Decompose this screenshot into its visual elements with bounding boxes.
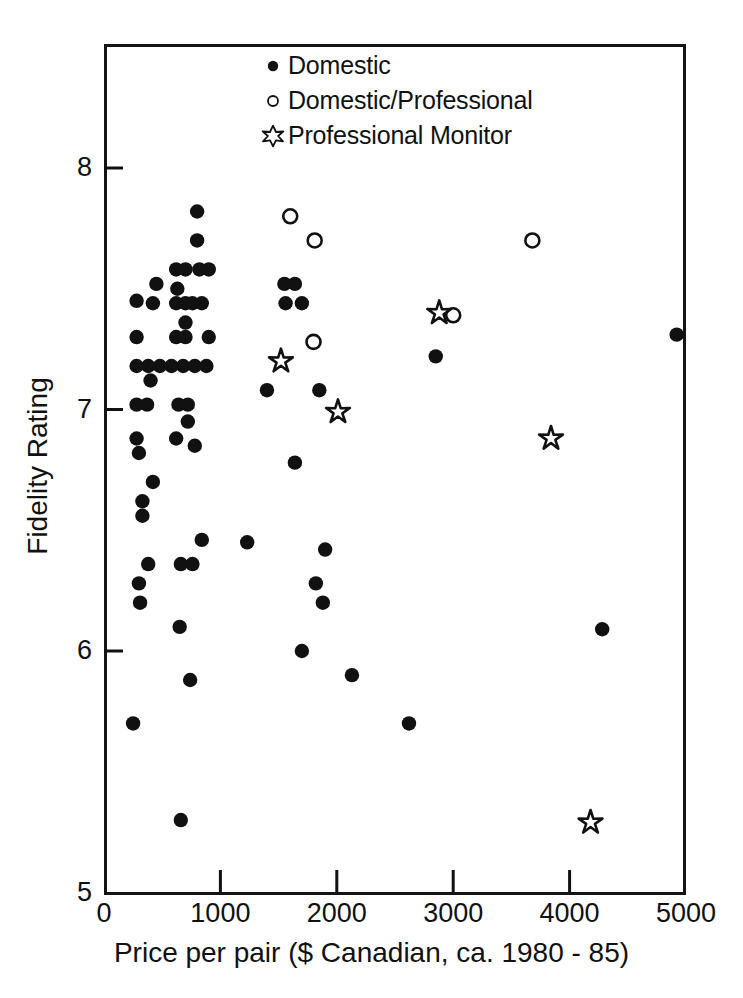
x-tick-label-5000: 5000 bbox=[626, 900, 743, 927]
open-circle-icon bbox=[258, 90, 288, 112]
x-tick-label-2000: 2000 bbox=[277, 900, 397, 927]
plot-area-frame bbox=[104, 44, 686, 895]
x-tick-label-4000: 4000 bbox=[510, 900, 630, 927]
legend-label-domestic-professional: Domestic/Professional bbox=[288, 88, 533, 113]
y-tick-label-6: 6 bbox=[52, 637, 92, 664]
y-axis-title: Fidelity Rating bbox=[22, 336, 54, 596]
scatter-plot-figure: Domestic Domestic/Professional Professio… bbox=[0, 0, 743, 998]
open-star-icon bbox=[258, 123, 288, 149]
legend-label-professional-monitor: Professional Monitor bbox=[288, 123, 512, 148]
legend-label-domestic: Domestic bbox=[288, 53, 391, 78]
legend-entry-domestic-professional: Domestic/Professional bbox=[258, 83, 588, 118]
x-tick-label-3000: 3000 bbox=[393, 900, 513, 927]
legend-entry-professional-monitor: Professional Monitor bbox=[258, 118, 588, 153]
legend-entry-domestic: Domestic bbox=[258, 48, 588, 83]
x-tick-label-0: 0 bbox=[44, 900, 164, 927]
y-tick-label-8: 8 bbox=[52, 154, 92, 181]
filled-circle-icon bbox=[258, 55, 288, 77]
y-tick-label-7: 7 bbox=[52, 396, 92, 423]
x-axis-title: Price per pair ($ Canadian, ca. 1980 - 8… bbox=[0, 937, 743, 969]
x-tick-label-1000: 1000 bbox=[160, 900, 280, 927]
chart-legend: Domestic Domestic/Professional Professio… bbox=[258, 48, 588, 153]
